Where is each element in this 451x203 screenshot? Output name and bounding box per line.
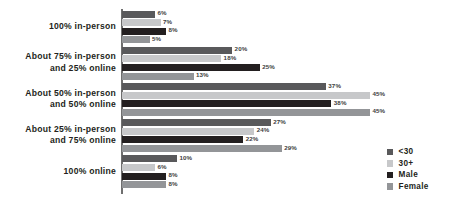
bar-value-label: 6%: [157, 9, 166, 16]
category-label-line: and 75% online: [0, 135, 116, 146]
bar-30-2: [122, 83, 326, 90]
legend-label: 30+: [399, 159, 414, 168]
bar-Male-2: [122, 100, 331, 107]
bar-value-label: 5%: [152, 35, 161, 42]
grouped-bar-chart: 100% in-personAbout 75% in-personand 25%…: [0, 0, 451, 203]
category-label-line: and 25% online: [0, 63, 116, 74]
bar-value-label: 20%: [235, 45, 248, 52]
bar-group-row: 5%: [122, 36, 451, 43]
category-label-line: About 75% in-person: [0, 51, 116, 62]
legend-label: Female: [399, 182, 429, 191]
legend-swatch-icon: [387, 160, 393, 166]
bar-group-row: 7%: [122, 19, 451, 26]
bar-value-label: 38%: [334, 99, 347, 106]
bar-value-label: 29%: [284, 144, 297, 151]
category-axis-labels: 100% in-personAbout 75% in-personand 25%…: [0, 0, 116, 203]
bar-group-row: 38%: [122, 100, 451, 107]
legend-swatch-icon: [387, 172, 393, 178]
legend-item-30[interactable]: 30+: [387, 158, 451, 170]
legend-label: Male: [399, 170, 418, 179]
category-label-line: About 25% in-person: [0, 124, 116, 135]
bar-value-label: 8%: [168, 26, 177, 33]
bar-group-row: 6%: [122, 11, 451, 18]
category-label-4: 100% online: [0, 166, 116, 177]
category-label-0: 100% in-person: [0, 21, 116, 32]
legend-item-30[interactable]: <30: [387, 146, 451, 158]
bar-value-label: 8%: [168, 180, 177, 187]
bar-group-row: 13%: [122, 73, 451, 80]
bar-value-label: 45%: [372, 107, 385, 114]
legend-swatch-icon: [387, 183, 393, 189]
bar-value-label: 45%: [372, 90, 385, 97]
bar-30-0: [122, 19, 161, 26]
bar-Male-1: [122, 64, 260, 71]
legend-item-Female[interactable]: Female: [387, 181, 451, 193]
bar-value-label: 25%: [262, 63, 275, 70]
bar-Female-3: [122, 145, 282, 152]
bar-30-1: [122, 55, 221, 62]
bar-value-label: 24%: [257, 126, 270, 133]
chart-legend: <3030+MaleFemale: [387, 146, 451, 192]
bar-Male-0: [122, 28, 166, 35]
bar-group-row: 22%: [122, 136, 451, 143]
bar-group-row: 37%: [122, 83, 451, 90]
bar-value-label: 37%: [328, 82, 341, 89]
bar-Female-0: [122, 36, 150, 43]
bar-group-row: 45%: [122, 92, 451, 99]
category-label-3: About 25% in-personand 75% online: [0, 124, 116, 146]
bar-group-row: 45%: [122, 109, 451, 116]
bar-value-label: 6%: [157, 163, 166, 170]
bar-Female-4: [122, 181, 166, 188]
category-label-line: About 50% in-person: [0, 88, 116, 99]
legend-swatch-icon: [387, 149, 393, 155]
bar-30-1: [122, 47, 232, 54]
bar-Female-2: [122, 109, 370, 116]
bar-group-row: 20%: [122, 47, 451, 54]
bar-value-label: 7%: [163, 18, 172, 25]
bar-value-label: 8%: [168, 171, 177, 178]
bar-value-label: 10%: [180, 154, 193, 161]
bar-group-row: 24%: [122, 128, 451, 135]
bar-30-3: [122, 128, 254, 135]
bar-value-label: 13%: [196, 71, 209, 78]
bar-group-row: 8%: [122, 28, 451, 35]
bar-value-label: 27%: [273, 118, 286, 125]
category-label-line: 100% online: [0, 166, 116, 177]
category-label-line: and 50% online: [0, 99, 116, 110]
bar-30-2: [122, 92, 370, 99]
bar-Male-4: [122, 173, 166, 180]
bar-30-0: [122, 11, 155, 18]
bar-Male-3: [122, 136, 243, 143]
bar-group-row: 18%: [122, 55, 451, 62]
bar-group-row: 27%: [122, 119, 451, 126]
category-label-line: 100% in-person: [0, 21, 116, 32]
category-label-1: About 75% in-personand 25% online: [0, 51, 116, 73]
category-label-2: About 50% in-personand 50% online: [0, 88, 116, 110]
legend-label: <30: [399, 147, 414, 156]
bar-Female-1: [122, 73, 194, 80]
bar-value-label: 18%: [224, 54, 237, 61]
bar-group-row: 25%: [122, 64, 451, 71]
bar-30-4: [122, 155, 177, 162]
bar-30-4: [122, 164, 155, 171]
bar-30-3: [122, 119, 271, 126]
legend-item-Male[interactable]: Male: [387, 169, 451, 181]
bar-value-label: 22%: [246, 135, 259, 142]
